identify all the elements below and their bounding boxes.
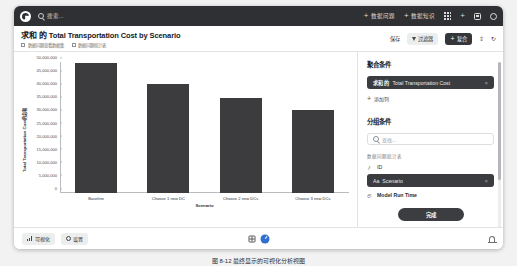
y-axis-tick: 15,000,000: [37, 146, 61, 151]
done-button[interactable]: 完成: [398, 208, 464, 221]
group-by-section: 分组条件 查找... 数据问题统计表 ⚷ ID Aa Scenario ×: [367, 117, 494, 198]
new-data-question-button[interactable]: + 数据问题: [364, 12, 395, 20]
top-nav-actions: + 数据问题 + 数据知识 +: [364, 12, 497, 20]
figure-caption: 图 8-12 最终显示的可视化分析视图: [0, 256, 517, 265]
bar-slot: Choose 3 new DCs: [277, 62, 349, 193]
bar-slot: Choose 1 new DC: [132, 62, 204, 193]
y-axis-tick: 50,000,000: [37, 55, 61, 60]
bar[interactable]: [147, 84, 189, 193]
remove-icon[interactable]: ×: [484, 178, 488, 184]
funnel-icon: [412, 37, 416, 41]
compound-button[interactable]: + 复合: [445, 33, 472, 45]
search-icon: [38, 13, 44, 19]
x-axis-tick-label: Choose 3 new DCs: [295, 196, 330, 201]
plus-icon: +: [404, 12, 409, 20]
meta-table-label: 数据问题统计表: [78, 42, 106, 48]
field-item-id[interactable]: ⚷ ID: [367, 164, 494, 170]
x-axis-tick-label: Choose 2 new DCs: [223, 196, 258, 201]
query-settings-panel: 聚合条件 求和 的 Total Transportation Cost × + …: [357, 52, 503, 227]
settings-gear-icon[interactable]: [490, 13, 497, 20]
bar[interactable]: [220, 98, 262, 193]
workspace-body: Total Transportation Cost的总和 05,000,0001…: [14, 52, 503, 227]
field-item-label: Scenario: [382, 178, 402, 184]
bar-chart: 05,000,00010,000,00015,000,00020,000,000…: [60, 62, 349, 193]
new-data-knowledge-label: 数据知识: [411, 12, 435, 20]
field-item-label: ID: [377, 164, 382, 170]
x-axis-tick-label: Choose 1 new DC: [152, 196, 185, 201]
screenshot-root: 搜索... + 数据问题 + 数据知识 + 求和 的: [0, 0, 517, 266]
text-type-icon: Aa: [373, 178, 379, 184]
new-data-question-label: 数据问题: [371, 12, 395, 20]
refresh-icon[interactable]: ↻: [491, 35, 496, 42]
visualization-label: 可视化: [35, 235, 50, 242]
top-navigation-bar: 搜索... + 数据问题 + 数据知识 +: [14, 6, 503, 26]
app-window: 搜索... + 数据问题 + 数据知识 + 求和 的: [14, 6, 503, 249]
bar-series: BaselineChoose 1 new DCChoose 2 new DCsC…: [60, 62, 349, 193]
settings-button[interactable]: 设置: [61, 233, 89, 245]
gear-icon: [66, 236, 71, 241]
clock-icon: ◴: [367, 193, 373, 198]
table-icon: [72, 43, 76, 47]
page-title: 求和 的 Total Transportation Cost by Scenar…: [21, 29, 180, 40]
add-plus-icon[interactable]: +: [460, 12, 465, 20]
meta-dataset[interactable]: 数据问题查看数据集: [21, 42, 64, 48]
database-icon: [21, 43, 25, 47]
meta-dataset-label: 数据问题查看数据集: [28, 42, 64, 48]
aggregation-chip-prefix: 求和 的: [373, 79, 389, 86]
plus-icon: +: [367, 95, 371, 102]
notification-icon[interactable]: [489, 236, 495, 242]
apps-grid-icon[interactable]: [444, 12, 451, 19]
view-switcher: [248, 234, 269, 243]
field-item-scenario-selected[interactable]: Aa Scenario ×: [367, 174, 494, 187]
meta-table[interactable]: 数据问题统计表: [72, 42, 107, 48]
chart-pane: Total Transportation Cost的总和 05,000,0001…: [14, 52, 357, 227]
field-search-placeholder: 查找...: [382, 136, 396, 143]
compound-label: 复合: [457, 35, 467, 42]
y-axis-tick: 45,000,000: [37, 68, 61, 73]
chart-bars-icon: [27, 236, 32, 241]
y-axis-label: Total Transportation Cost的总和: [21, 108, 27, 172]
bar[interactable]: [75, 63, 117, 193]
y-axis-tick: 40,000,000: [37, 81, 61, 86]
plus-icon: +: [364, 12, 369, 20]
y-axis-tick: 35,000,000: [37, 94, 61, 99]
global-search[interactable]: 搜索...: [38, 12, 64, 20]
bar[interactable]: [292, 110, 334, 193]
y-axis-tick: 20,000,000: [37, 133, 61, 138]
table-view-icon[interactable]: [248, 235, 255, 242]
settings-label: 设置: [73, 235, 83, 242]
share-icon[interactable]: ⇪: [479, 35, 484, 42]
add-column-button[interactable]: + 添加列: [367, 95, 494, 102]
group-by-heading: 分组条件: [367, 117, 494, 126]
search-input-placeholder[interactable]: 搜索...: [47, 12, 64, 20]
visualization-button[interactable]: 可视化: [22, 233, 55, 245]
plus-icon: +: [450, 35, 454, 42]
aggregation-chip[interactable]: 求和 的 Total Transportation Cost ×: [367, 76, 494, 89]
y-axis-tick: 5,000,000: [39, 172, 60, 177]
field-item-model-run-time[interactable]: ◴ Model Run Time: [367, 192, 494, 198]
bar-slot: Choose 2 new DCs: [205, 62, 277, 193]
aggregation-heading: 聚合条件: [367, 60, 494, 69]
group-source-label: 数据问题统计表: [367, 153, 494, 159]
app-logo-icon[interactable]: [20, 11, 31, 22]
new-window-icon[interactable]: [474, 13, 481, 20]
title-block: 求和 的 Total Transportation Cost by Scenar…: [21, 29, 180, 48]
field-search-input[interactable]: 查找...: [367, 133, 494, 145]
page-title-main: Total Transportation Cost by Scenario: [49, 31, 181, 40]
x-axis-tick-label: Baseline: [88, 196, 104, 201]
y-axis-tick: 25,000,000: [37, 120, 61, 125]
field-item-label: Model Run Time: [377, 192, 417, 198]
chart-view-icon[interactable]: [260, 234, 269, 243]
filter-button[interactable]: 过滤器: [407, 33, 439, 45]
filter-label: 过滤器: [418, 35, 433, 42]
save-button[interactable]: 保存: [390, 35, 400, 42]
title-actions: 保存 过滤器 + 复合 ⇪ ↻: [390, 33, 496, 45]
aggregation-chip-name: Total Transportation Cost: [392, 80, 450, 86]
new-data-knowledge-button[interactable]: + 数据知识: [404, 12, 435, 20]
bar-slot: Baseline: [60, 62, 132, 193]
panel-scrollbar[interactable]: [498, 62, 501, 227]
y-axis-tick: 10,000,000: [37, 159, 61, 164]
remove-icon[interactable]: ×: [484, 80, 488, 86]
search-icon: [373, 136, 379, 142]
key-icon: ⚷: [367, 165, 373, 170]
